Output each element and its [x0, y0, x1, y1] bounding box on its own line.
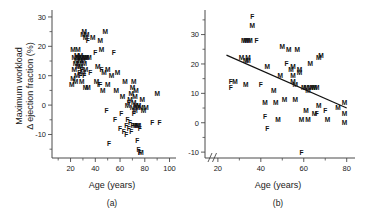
data-point-marker: M: [232, 78, 238, 85]
data-point-marker: F: [93, 49, 97, 56]
x-tick-label: 60: [300, 164, 308, 173]
data-point-marker: M: [292, 81, 298, 88]
data-point-marker: M: [138, 149, 144, 156]
data-point-marker: M: [122, 78, 128, 85]
x-tick-label: 80: [343, 164, 351, 173]
data-point-marker: F: [113, 116, 117, 123]
data-point-marker: M: [297, 69, 303, 76]
data-point-marker: M: [271, 87, 277, 94]
data-point-marker: M: [114, 87, 120, 94]
data-point-marker: F: [263, 113, 267, 120]
data-point-marker: M: [90, 34, 96, 41]
data-point-marker: M: [295, 46, 301, 53]
y-tick-label: 20: [38, 42, 46, 51]
data-point-marker: M: [140, 96, 146, 103]
data-point-marker: F: [104, 107, 108, 114]
data-point-marker: M: [85, 84, 91, 91]
data-point-marker: M: [133, 87, 139, 94]
x-tick-label: 60: [116, 164, 124, 173]
data-point-marker: M: [273, 99, 279, 106]
data-point-marker: M: [262, 99, 268, 106]
figure-container: -10010203020406080100MMMMMMMMMMMMMFMMFMM…: [0, 0, 366, 216]
data-point-marker: M: [115, 69, 121, 76]
data-point-marker: F: [119, 110, 123, 117]
x-tick-label: 100: [163, 164, 176, 173]
data-point-marker: M: [245, 54, 251, 61]
data-point-marker: M: [275, 116, 281, 123]
data-point-marker: M: [335, 104, 341, 111]
data-point-marker: F: [323, 107, 327, 114]
data-point-marker: M: [277, 72, 283, 79]
data-point-marker: M: [325, 116, 331, 123]
data-point-marker: M: [265, 63, 271, 70]
data-point-marker: M: [282, 96, 288, 103]
data-point-marker: M: [120, 93, 126, 100]
data-point-marker: M: [342, 99, 348, 106]
data-point-marker: F: [112, 49, 116, 56]
y-tick-label: 0: [195, 119, 199, 128]
data-point-marker: M: [102, 28, 108, 35]
data-point-marker: M: [318, 52, 324, 59]
y-tick-label: 10: [191, 89, 199, 98]
data-point-marker: M: [299, 116, 305, 123]
x-tick-label: 40: [91, 164, 99, 173]
x-tick-label: 80: [141, 164, 149, 173]
data-point-marker: M: [97, 37, 103, 44]
data-point-marker: F: [138, 125, 142, 132]
data-point-marker: M: [86, 54, 92, 61]
data-point-marker: M: [99, 46, 105, 53]
x-tick-label: 20: [66, 164, 74, 173]
data-point-marker: F: [135, 137, 139, 144]
x-axis-title: Age (years): [89, 180, 136, 190]
y-tick-label: -10: [188, 148, 199, 157]
y-tick-label: 0: [42, 101, 46, 110]
data-point-marker: M: [342, 110, 348, 117]
data-point-marker: F: [158, 119, 162, 126]
scatter-plot-a: -10010203020406080100MMMMMMMMMMMMMFMMFMM…: [0, 0, 183, 216]
data-point-marker: F: [107, 140, 111, 147]
y-tick-label: 20: [191, 60, 199, 69]
data-point-marker: F: [300, 149, 304, 156]
y-axis-title-line2: Δ ejection fraction (%): [25, 42, 35, 130]
y-tick-label: 30: [191, 30, 199, 39]
y-tick-label: -10: [35, 130, 46, 139]
y-tick-label: 10: [38, 72, 46, 81]
data-point-marker: F: [150, 119, 154, 126]
data-point-marker: M: [286, 46, 292, 53]
data-point-marker: M: [290, 63, 296, 70]
data-point-marker: M: [280, 43, 286, 50]
data-point-marker: F: [315, 110, 319, 117]
data-point-marker: F: [265, 125, 269, 132]
data-point-marker: M: [143, 104, 149, 111]
data-point-marker: M: [105, 81, 111, 88]
data-point-marker: M: [342, 119, 348, 126]
scatter-plot-b: -10010203020406080FFMMMMMMMMMMFMFFMFMFMM…: [183, 0, 366, 216]
x-axis-title: Age (years): [255, 180, 302, 190]
x-tick-label: 20: [214, 164, 222, 173]
panel-caption: (a): [107, 198, 118, 208]
y-axis-title-line1: Maximum workload: [14, 47, 24, 125]
data-point-marker: M: [109, 72, 115, 79]
data-point-marker: M: [247, 37, 253, 44]
panel-caption: (b): [273, 198, 284, 208]
data-point-marker: M: [314, 84, 320, 91]
data-point-marker: M: [131, 78, 137, 85]
data-point-marker: M: [249, 22, 255, 29]
data-point-marker: M: [307, 60, 313, 67]
data-point-marker: F: [259, 81, 263, 88]
data-point-marker: M: [154, 90, 160, 97]
data-point-marker: M: [303, 107, 309, 114]
panel-b: -10010203020406080FFMMMMMMMMMMFMFFMFMFMM…: [183, 0, 366, 216]
data-point-marker: M: [305, 116, 311, 123]
panel-a: -10010203020406080100MMMMMMMMMMMMMFMMFMM…: [0, 0, 183, 216]
data-point-marker: F: [88, 69, 92, 76]
data-point-marker: M: [243, 81, 249, 88]
y-tick-label: 30: [38, 13, 46, 22]
data-point-marker: M: [292, 96, 298, 103]
data-point-marker: F: [250, 13, 254, 20]
data-point-marker: M: [316, 102, 322, 109]
data-point-marker: F: [255, 37, 259, 44]
x-tick-label: 40: [257, 164, 265, 173]
